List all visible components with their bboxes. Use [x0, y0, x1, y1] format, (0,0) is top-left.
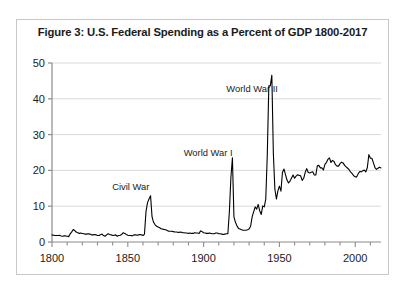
x-tick-label-1850: 1850 — [116, 252, 140, 264]
figure-frame: Figure 3: U.S. Federal Spending as a Per… — [16, 19, 389, 275]
y-tick-label-0: 0 — [39, 236, 45, 248]
y-tick-label-30: 30 — [33, 129, 45, 141]
x-tick-label-1950: 1950 — [267, 252, 291, 264]
y-axis-tick-labels: 01020304050 — [33, 57, 45, 248]
y-tick-label-40: 40 — [33, 93, 45, 105]
y-tick-label-50: 50 — [33, 57, 45, 69]
x-tick-label-1800: 1800 — [40, 252, 64, 264]
x-tick-label-1900: 1900 — [191, 252, 215, 264]
gridlines-group — [52, 63, 381, 206]
x-axis-tick-labels: 18001850190019502000 — [40, 252, 368, 264]
y-tick-label-20: 20 — [33, 164, 45, 176]
x-tick-label-2000: 2000 — [343, 252, 367, 264]
annotation-label-1: World War I — [184, 147, 233, 158]
chart-plot: 01020304050 18001850190019502000 Civil W… — [17, 20, 388, 274]
annotation-label-2: World War II — [226, 83, 278, 94]
annotation-label-0: Civil War — [112, 181, 149, 192]
y-tick-label-10: 10 — [33, 200, 45, 212]
